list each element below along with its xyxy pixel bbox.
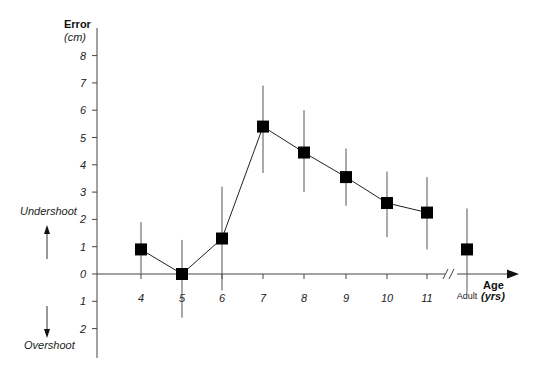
y-tick-label: 4: [80, 159, 86, 171]
x-tick-label: 10: [381, 292, 394, 304]
data-point-marker: [340, 171, 352, 183]
data-point-marker: [298, 147, 310, 159]
data-point-marker: [381, 197, 393, 209]
y-tick-label: 2: [79, 323, 86, 335]
y-tick-label: 0: [80, 268, 87, 280]
y-axis-ticks: 87654321012: [79, 50, 97, 335]
error-by-age-chart: Error (cm) 87654321012 4567891011Adult A…: [0, 0, 537, 374]
y-axis-title: Error: [64, 18, 92, 30]
x-tick-label-adult: Adult: [457, 291, 478, 301]
x-tick-label: 8: [301, 292, 308, 304]
data-point-marker: [461, 243, 473, 255]
down-arrow-icon: [44, 306, 50, 338]
y-tick-label: 1: [80, 241, 86, 253]
y-tick-label: 6: [80, 104, 87, 116]
x-tick-label: 4: [138, 292, 144, 304]
data-point-marker: [257, 121, 269, 133]
y-tick-label: 1: [80, 295, 86, 307]
data-point-marker: [176, 268, 188, 280]
y-axis-unit: (cm): [64, 31, 86, 43]
x-tick-label: 11: [421, 292, 432, 304]
up-arrow-icon: [44, 225, 50, 259]
x-axis-arrow-icon: [507, 270, 519, 279]
y-tick-label: 7: [80, 77, 87, 89]
undershoot-label: Undershoot: [20, 205, 78, 217]
x-tick-label: 6: [219, 292, 226, 304]
data-point-marker: [135, 243, 147, 255]
y-tick-label: 8: [80, 50, 87, 62]
data-point-marker: [421, 207, 433, 219]
x-axis-ticks: 4567891011Adult: [138, 274, 478, 304]
y-tick-label: 2: [79, 213, 86, 225]
error-bars: [141, 86, 467, 318]
overshoot-label: Overshoot: [24, 339, 76, 351]
y-tick-label: 3: [80, 186, 87, 198]
x-tick-label: 9: [343, 292, 349, 304]
x-axis-unit: (yrs): [481, 290, 505, 302]
data-point-marker: [216, 233, 228, 245]
x-tick-label: 7: [260, 292, 267, 304]
y-tick-label: 5: [80, 132, 87, 144]
